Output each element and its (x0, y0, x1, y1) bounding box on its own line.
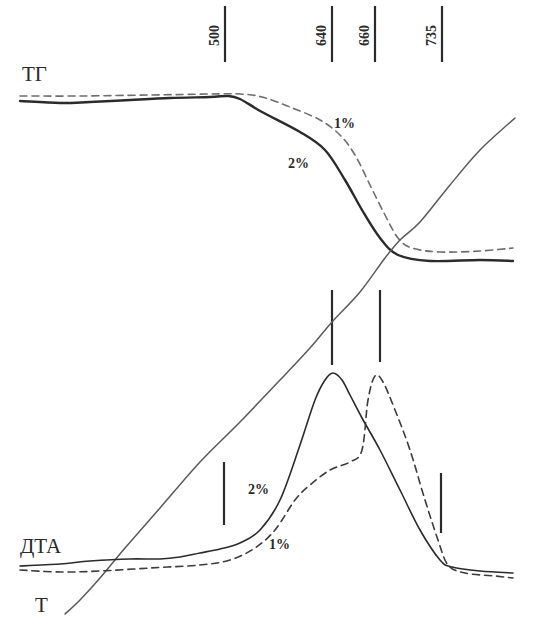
temperature-marker-label: 735 (424, 25, 439, 46)
thermogram-chart: 500640660735 1%2%2%1% ТГ ДТА Т (0, 0, 533, 634)
temperature-marker-label: 660 (357, 25, 372, 46)
tg-curve-label: ТГ (22, 62, 47, 86)
dta-curve (20, 373, 513, 573)
percent-label: 1% (334, 116, 355, 131)
temperature-marker: 640 (314, 6, 332, 62)
temperature-marker: 660 (357, 6, 375, 62)
t-curve (65, 118, 515, 614)
dta-curve (20, 375, 513, 578)
tg-curve (20, 94, 513, 252)
dta-curve-label: ДТА (20, 534, 62, 558)
percent-annotations: 1%2%2%1% (248, 116, 355, 552)
t-curve-label: Т (35, 593, 48, 617)
temperature-marker: 735 (424, 6, 442, 62)
percent-label: 2% (288, 156, 309, 171)
percent-label: 2% (248, 482, 269, 497)
temperature-marker-label: 500 (207, 25, 222, 46)
tg-curve (20, 96, 513, 261)
temperature-markers: 500640660735 (207, 6, 442, 62)
percent-label: 1% (269, 537, 290, 552)
temperature-marker: 500 (207, 6, 225, 62)
temperature-marker-label: 640 (314, 25, 329, 46)
data-series (20, 94, 515, 614)
